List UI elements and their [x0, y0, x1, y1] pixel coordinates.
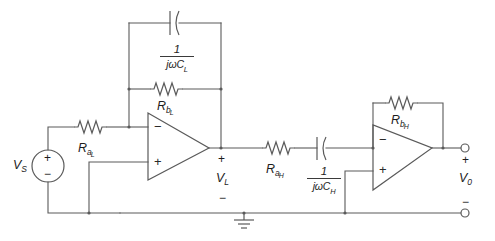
wire-source-top: [48, 127, 74, 150]
node-dot-ground-center: [242, 211, 245, 214]
circuit-schematic-canvas: [0, 0, 495, 241]
output-label: V0: [459, 172, 472, 185]
opamp-high-noninverting-sign: +: [379, 163, 387, 176]
node-dot-rbL-left: [127, 87, 130, 90]
wire-rbH-right-bus: [418, 103, 443, 148]
resistor-rbH-label: RbH: [391, 114, 410, 127]
wire-source-bottom: [48, 182, 120, 213]
capacitor-cL-numerator: 1: [150, 44, 204, 56]
vl-minus-sign: −: [219, 192, 226, 204]
node-dot-ground-high: [343, 211, 346, 214]
resistor-raL-label: RaL: [78, 142, 96, 155]
node-dot-vl: [219, 146, 222, 149]
node-dot-inverting-low: [127, 125, 130, 128]
output-plus-sign: +: [462, 154, 469, 166]
capacitor-cH-denominator: jωCH: [297, 179, 351, 194]
node-dot-inverting-high: [371, 146, 374, 149]
wire-noninverting-low-to-ground: [89, 162, 148, 213]
resistor-rbH-symbol: [385, 97, 418, 109]
capacitor-cL-denominator: jωCL: [150, 57, 204, 72]
output-minus-sign: −: [462, 196, 469, 208]
capacitor-cH-label: 1 jωCH: [297, 166, 351, 194]
opamp-low-inverting-sign: −: [154, 120, 162, 133]
node-dot-rbL-right: [219, 87, 222, 90]
source-plus-sign: +: [44, 152, 51, 164]
node-dot-ground-low: [87, 211, 90, 214]
circuit-diagram: VS + − RaL RbL 1 jωCL − + + VL − RaH 1 j…: [0, 0, 495, 241]
node-dot-output-high: [441, 146, 444, 149]
capacitor-cL-label: 1 jωCL: [150, 44, 204, 72]
source-minus-sign: −: [44, 168, 51, 180]
opamp-low-noninverting-sign: +: [154, 155, 162, 168]
vl-label: VL: [216, 172, 229, 185]
resistor-rbL-label: RbL: [157, 100, 175, 113]
resistor-raL-symbol: [74, 121, 107, 133]
vl-plus-sign: +: [218, 153, 225, 165]
output-terminal-negative: [461, 209, 469, 217]
resistor-raH-symbol: [262, 142, 295, 154]
opamp-high-inverting-sign: −: [379, 133, 387, 146]
capacitor-cH-numerator: 1: [297, 166, 351, 178]
source-label: VS: [13, 159, 27, 172]
output-terminal-positive: [461, 144, 469, 152]
resistor-raH-label: RaH: [266, 163, 285, 176]
resistor-rbL-symbol: [150, 83, 183, 95]
